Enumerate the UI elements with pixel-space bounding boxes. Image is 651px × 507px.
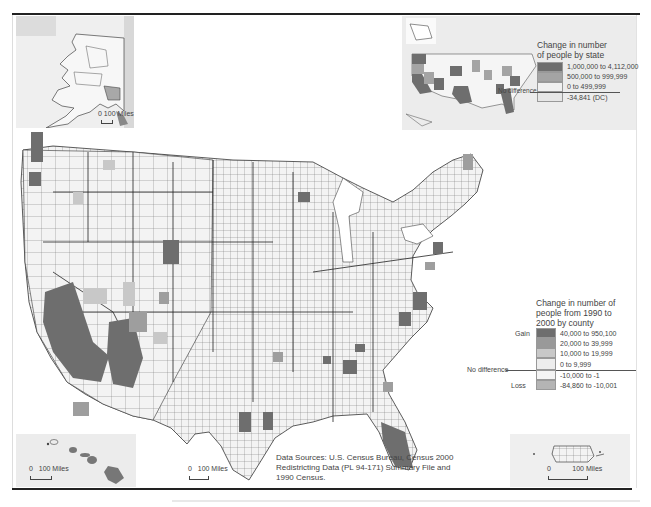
state-legend-no-difference-line: [530, 92, 620, 93]
county-legend-swatch-3: [536, 348, 556, 358]
county-legend-title-line: 2000 by county: [536, 318, 615, 328]
hawaii-scale-bar: [30, 476, 52, 480]
county-legend-label: 10,000 to 19,999: [560, 350, 613, 357]
scale-miles: 100 Miles: [104, 110, 134, 117]
county-legend-label: -84,860 to -10,001: [560, 382, 617, 389]
alaska-scale-bar: [101, 120, 113, 124]
hawaii-scale-label: 0 100 Miles: [29, 465, 69, 472]
state-legend-title: Change in number of people by state: [537, 40, 607, 60]
county-legend-label: 40,000 to 950,100: [560, 330, 616, 337]
county-legend-title-line: people from 1990 to: [536, 308, 615, 318]
map-frame-right-edge: [636, 15, 637, 488]
state-legend-label: 0 to 499,999: [567, 83, 606, 90]
state-legend-swatch-1: [537, 62, 563, 72]
county-legend-swatch-1: [536, 328, 556, 338]
county-legend-no-difference-line: [506, 370, 636, 371]
state-legend-label: -34,841 (DC): [567, 94, 607, 101]
state-legend-swatch-2: [537, 72, 563, 82]
state-legend-title-line: Change in number: [537, 40, 607, 50]
main-scale-label: 0 100 Miles: [188, 465, 228, 472]
scale-zero: 0: [29, 465, 33, 472]
state-legend-label: 500,000 to 999,999: [567, 73, 627, 80]
state-legend-swatch-4: [537, 92, 563, 102]
county-legend-swatch-6: [536, 380, 556, 390]
data-source-line: Data Sources: U.S. Census Bureau, Census…: [276, 453, 453, 463]
state-legend-label: 1,000,000 to 4,112,000: [567, 63, 639, 70]
county-legend-label: -10,000 to -1: [560, 372, 600, 379]
puerto-rico-scale-bar: [548, 476, 588, 480]
scale-zero: 0: [547, 465, 551, 472]
alaska-scale-label: 0 100 Miles: [98, 110, 134, 117]
county-legend-label: 0 to 9,999: [560, 361, 591, 368]
puerto-rico-inset: 0 100 Miles: [510, 434, 630, 487]
map-frame-bottom-rule: [12, 488, 632, 490]
county-legend-no-difference: No difference: [467, 366, 509, 373]
state-legend-swatch-3: [537, 82, 563, 92]
scale-miles: 100 Miles: [572, 465, 602, 472]
county-legend-label: 20,000 to 39,999: [560, 340, 613, 347]
page-divider: [172, 500, 640, 502]
data-source-line: 1990 Census.: [276, 473, 453, 483]
county-legend-title-line: Change in number of: [536, 298, 615, 308]
data-source-note: Data Sources: U.S. Census Bureau, Census…: [276, 453, 453, 483]
hawaii-inset: 0 100 Miles: [16, 434, 136, 487]
puerto-rico-scale-label: 0 100 Miles: [547, 465, 602, 472]
main-scale-bar: [189, 476, 209, 480]
scale-zero: 0: [98, 110, 102, 117]
scale-miles: 100 Miles: [39, 465, 69, 472]
scale-zero: 0: [188, 465, 192, 472]
county-legend-swatch-5: [536, 370, 556, 380]
data-source-line: Redistricting Data (PL 94-171) Summary F…: [276, 463, 453, 473]
county-legend-gain: Gain: [515, 330, 530, 337]
county-legend-loss: Loss: [511, 382, 526, 389]
scale-miles: 100 Miles: [198, 465, 228, 472]
county-legend-swatch-4: [536, 358, 556, 370]
map-frame-top-rule: [12, 13, 640, 15]
county-legend-swatch-2: [536, 338, 556, 348]
state-legend-title-line: of people by state: [537, 50, 607, 60]
state-inset: Change in number of people by state 1,00…: [402, 16, 636, 130]
alaska-inset: 0 100 Miles: [16, 16, 134, 128]
county-legend-title: Change in number of people from 1990 to …: [536, 298, 615, 328]
